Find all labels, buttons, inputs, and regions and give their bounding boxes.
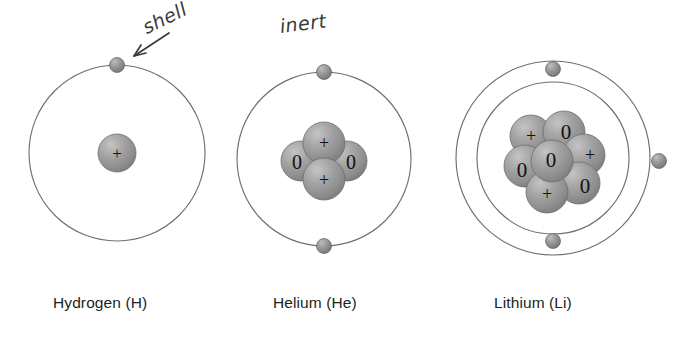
neutron-symbol: 0 (546, 148, 557, 172)
proton-symbol: + (585, 145, 595, 165)
atom-label-hydrogen: Hydrogen (H) (53, 295, 147, 311)
atom-label-helium: Helium (He) (273, 295, 357, 311)
proton-symbol: + (319, 170, 329, 190)
atom-diagram-svg: + 0 0 + + (0, 0, 692, 338)
electron-sphere (546, 234, 561, 249)
electron-sphere (317, 239, 332, 254)
neutron-symbol: 0 (580, 174, 591, 198)
proton-symbol: + (542, 184, 552, 204)
neutron-symbol: 0 (561, 120, 572, 144)
hydrogen-nucleus: + (98, 134, 136, 172)
proton-symbol: + (319, 133, 329, 153)
neutron-symbol: 0 (346, 151, 356, 173)
proton-symbol: + (112, 144, 122, 163)
hydrogen-electron (110, 58, 125, 73)
atom-diagram-canvas: + 0 0 + + (0, 0, 692, 338)
proton-symbol: + (526, 126, 536, 146)
electron-sphere (317, 65, 332, 80)
electron-sphere (110, 58, 125, 73)
neutron-symbol: 0 (292, 151, 302, 173)
neutron-symbol: 0 (517, 158, 528, 182)
electron-sphere (546, 62, 561, 77)
atom-label-lithium: Lithium (Li) (494, 295, 572, 311)
electron-sphere (652, 154, 667, 169)
